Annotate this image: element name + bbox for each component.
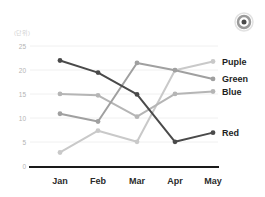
series-label-green: Green	[222, 74, 248, 84]
x-axis-ticks: Jan Feb Mar Apr May	[52, 176, 222, 186]
chart-plot-area: 25 20 15 10 5 0 Jan Feb Mar Apr May Pupl…	[0, 0, 265, 197]
y-tick-20: 20	[19, 67, 27, 74]
line-chart-card: (단위) 25 20 15 10 5 0 Jan Feb Mar A	[0, 0, 265, 197]
data-point[interactable]	[58, 111, 63, 116]
y-tick-10: 10	[19, 115, 27, 122]
x-tick-feb: Feb	[90, 176, 107, 186]
x-tick-mar: Mar	[129, 176, 146, 186]
data-point[interactable]	[135, 92, 140, 97]
data-point[interactable]	[58, 58, 63, 63]
data-point[interactable]	[173, 68, 178, 73]
data-point[interactable]	[58, 150, 63, 155]
data-point[interactable]	[96, 93, 101, 98]
x-tick-may: May	[204, 176, 222, 186]
y-axis-ticks: 25 20 15 10 5 0	[19, 43, 27, 170]
series-end-labels: PupleBlueGreenRed	[222, 57, 248, 138]
data-point[interactable]	[96, 119, 101, 124]
data-point[interactable]	[211, 130, 216, 135]
x-tick-apr: Apr	[167, 176, 183, 186]
data-point[interactable]	[135, 139, 140, 144]
y-tick-15: 15	[19, 91, 27, 98]
data-point[interactable]	[211, 59, 216, 64]
data-point[interactable]	[173, 92, 178, 97]
series-label-red: Red	[222, 128, 239, 138]
series-red	[58, 58, 216, 144]
series-layer	[58, 58, 216, 155]
x-tick-jan: Jan	[52, 176, 68, 186]
series-label-blue: Blue	[222, 87, 242, 97]
data-point[interactable]	[96, 128, 101, 133]
data-point[interactable]	[211, 77, 216, 82]
data-point[interactable]	[96, 70, 101, 75]
data-point[interactable]	[135, 114, 140, 119]
y-tick-5: 5	[22, 139, 26, 146]
series-label-puple: Puple	[222, 57, 247, 67]
data-point[interactable]	[173, 139, 178, 144]
y-tick-25: 25	[19, 43, 27, 50]
y-tick-0: 0	[22, 163, 26, 170]
data-point[interactable]	[135, 61, 140, 66]
data-point[interactable]	[211, 89, 216, 94]
data-point[interactable]	[58, 92, 63, 97]
